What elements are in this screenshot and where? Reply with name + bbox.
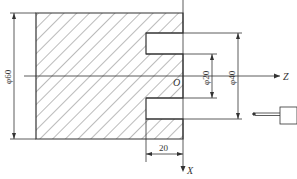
z-axis-label: Z xyxy=(283,71,289,82)
cutting-tool-icon xyxy=(253,107,297,124)
drawing-canvas: Z X O φ60 φ20 φ40 20 xyxy=(0,0,297,179)
origin-label: O xyxy=(173,77,180,88)
outer-diameter-label: φ60 xyxy=(3,69,13,84)
groove-width-label: 20 xyxy=(159,143,169,153)
groove-inner-diameter-label: φ20 xyxy=(201,70,211,85)
groove-outer-diameter-label: φ40 xyxy=(227,70,237,85)
x-axis-label: X xyxy=(186,165,194,176)
